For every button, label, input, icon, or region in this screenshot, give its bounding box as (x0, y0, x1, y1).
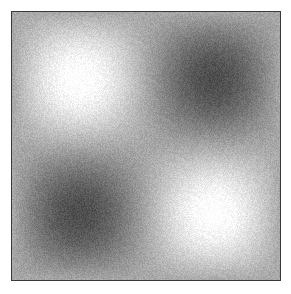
image-frame: Grayscale noisy texture with two bright … (11, 11, 281, 281)
image-description: Grayscale noisy texture with two bright … (12, 280, 13, 281)
noise-gradient-image (12, 12, 280, 280)
